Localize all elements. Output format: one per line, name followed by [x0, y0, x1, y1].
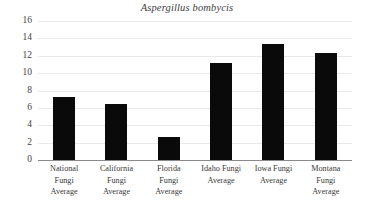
x-axis-label-line: Fungi [38, 175, 90, 187]
bar-slot [38, 21, 90, 160]
bar-slot [300, 21, 352, 160]
x-axis-label-line: Fungi [143, 175, 195, 187]
chart-title: Aspergillus bombycis [0, 2, 374, 13]
bar[interactable] [105, 104, 127, 160]
y-axis-tick-label: 4 [8, 120, 32, 130]
bar-slot [143, 21, 195, 160]
y-axis-tick-label: 10 [8, 68, 32, 78]
x-axis-tick-label: CaliforniaFungiAverage [90, 163, 142, 198]
x-axis-label-line: Average [143, 186, 195, 198]
x-axis-baseline [38, 160, 352, 161]
y-axis-tick-label: 16 [8, 16, 32, 26]
bar-slot [90, 21, 142, 160]
x-axis-label-line: Average [38, 186, 90, 198]
x-axis-tick-label: MontanaFungiAverage [300, 163, 352, 198]
bar[interactable] [315, 53, 337, 160]
y-axis-tick-label: 8 [8, 86, 32, 96]
x-axis-label-line: Montana [300, 163, 352, 175]
bars-layer [38, 21, 352, 160]
x-axis-tick-label: Idaho FungiAverage [195, 163, 247, 186]
y-axis-tick-label: 12 [8, 51, 32, 61]
bar[interactable] [210, 63, 232, 160]
x-axis-tick-label: NationalFungiAverage [38, 163, 90, 198]
bar-slot [247, 21, 299, 160]
x-axis-label-line: Average [90, 186, 142, 198]
bar[interactable] [158, 137, 180, 160]
y-axis-tick-label: 6 [8, 103, 32, 113]
x-axis-label-line: Average [195, 175, 247, 187]
x-axis-label-line: Fungi [90, 175, 142, 187]
y-axis-tick-label: 0 [8, 155, 32, 165]
bar[interactable] [262, 44, 284, 160]
x-axis-tick-label: FloridaFungiAverage [143, 163, 195, 198]
x-axis-label-line: Average [247, 175, 299, 187]
x-axis-label-line: National [38, 163, 90, 175]
x-axis-label-line: Average [300, 186, 352, 198]
x-axis-label-line: Iowa Fungi [247, 163, 299, 175]
x-axis-tick-label: Iowa FungiAverage [247, 163, 299, 186]
x-axis: NationalFungiAverageCaliforniaFungiAvera… [38, 163, 352, 218]
y-axis-tick-label: 2 [8, 138, 32, 148]
x-axis-label-line: Fungi [300, 175, 352, 187]
y-axis-tick-label: 14 [8, 33, 32, 43]
bar-chart-figure: Aspergillus bombycis 1614121086420 Natio… [0, 0, 374, 220]
x-axis-label-line: California [90, 163, 142, 175]
bar-slot [195, 21, 247, 160]
x-axis-label-line: Idaho Fungi [195, 163, 247, 175]
x-axis-label-line: Florida [143, 163, 195, 175]
bar[interactable] [53, 97, 75, 160]
